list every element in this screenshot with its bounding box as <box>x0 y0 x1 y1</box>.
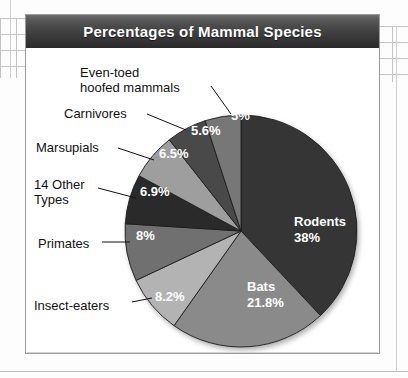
slice-percent-label: 6.9% <box>140 184 170 199</box>
card-bottom-rule <box>27 352 378 353</box>
slice-percent-label: 6.5% <box>159 146 189 161</box>
slice-percent-label: 8% <box>136 228 155 243</box>
pie-chart: Rodents38%Bats21.8%8.2%8%6.9%6.5%5.6%5% … <box>26 48 381 354</box>
page-rule-right <box>396 26 397 371</box>
slice-outer-label: 14 Other Types <box>34 177 85 207</box>
page-rule-bottom <box>0 371 408 372</box>
slice-percent-label: 5% <box>231 108 250 123</box>
chart-title-bar: Percentages of Mammal Species <box>26 15 379 48</box>
slice-outer-label: Primates <box>38 236 89 251</box>
slice-percent-label: 38% <box>294 230 320 245</box>
leader-line <box>98 188 136 198</box>
leader-line <box>147 114 186 130</box>
chart-card: Percentages of Mammal Species Rodents38%… <box>25 14 380 354</box>
page-title: Percentages of Mammal Species <box>83 23 321 40</box>
slice-outer-label: Even-toed hoofed mammals <box>80 65 180 95</box>
slice-percent-label: 21.8% <box>247 295 284 310</box>
page-rule-left <box>10 0 11 78</box>
leader-line <box>211 86 231 114</box>
leader-line <box>118 148 154 160</box>
graph-paper-fragment-left <box>0 18 26 78</box>
slice-outer-label: Carnivores <box>64 106 127 121</box>
page-background: Percentages of Mammal Species Rodents38%… <box>0 0 408 378</box>
slice-percent-label: 8.2% <box>155 289 185 304</box>
slice-outer-label: Insect-eaters <box>34 298 109 313</box>
slice-outer-label: Marsupials <box>36 140 99 155</box>
slice-name-label: Rodents <box>294 214 346 229</box>
slice-name-label: Bats <box>247 279 275 294</box>
slice-percent-label: 5.6% <box>191 123 221 138</box>
